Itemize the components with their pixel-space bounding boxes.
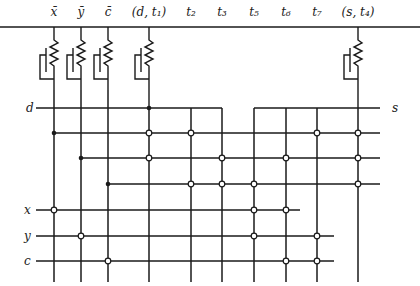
label-s: s: [392, 101, 398, 115]
label-cbar: c̄: [105, 5, 112, 19]
column-labels: x̄ ȳ c̄ (d, t₁) t₂ t₃ t₅ t₆ t₇ (s, t₄): [51, 5, 375, 19]
label-s-t4: (s, t₄): [342, 5, 375, 19]
label-d-t1: (d, t₁): [132, 5, 167, 19]
label-t3: t₃: [217, 5, 227, 19]
pullup-d-t1: [135, 27, 153, 108]
label-t5: t₅: [249, 5, 259, 19]
label-t6: t₆: [281, 5, 291, 19]
label-d: d: [26, 101, 34, 115]
pullup-xbar: [40, 27, 58, 90]
junction-cbar: [106, 182, 111, 187]
label-c: c: [24, 254, 31, 268]
pullup-s-t4: [344, 27, 362, 108]
label-y: y: [23, 229, 31, 243]
pullup-cbar: [94, 27, 112, 90]
label-t7: t₇: [312, 5, 322, 19]
label-xbar: x̄: [51, 5, 58, 19]
junction-xbar: [52, 131, 57, 136]
label-t2: t₂: [186, 5, 196, 19]
column-wires: [54, 90, 358, 282]
label-ybar: ȳ: [77, 5, 85, 19]
junction-d-t1: [147, 106, 152, 111]
label-x: x: [24, 203, 31, 217]
junction-ybar: [79, 156, 84, 161]
circuit-diagram: x̄ ȳ c̄ (d, t₁) t₂ t₃ t₅ t₆ t₇ (s, t₄): [0, 0, 420, 286]
crosspoints: [51, 130, 361, 264]
pullup-ybar: [67, 27, 85, 90]
